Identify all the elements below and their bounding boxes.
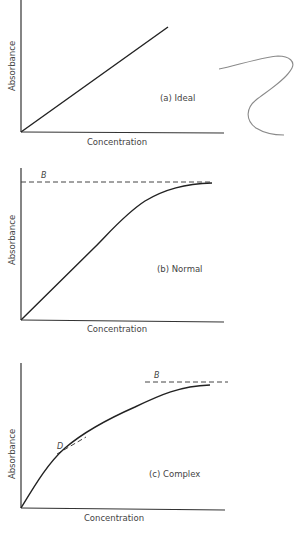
panel-c-y-label: Absorbance: [7, 429, 17, 479]
panel-c-b-label: B: [154, 371, 160, 380]
panel-a-title: (a) Ideal: [160, 93, 195, 103]
handwritten-squiggle: [219, 56, 293, 135]
calibration-curves-figure: Absorbance Concentration (a) Ideal B Abs…: [0, 0, 298, 533]
panel-b-x-label: Concentration: [87, 324, 147, 334]
panel-a-ideal-line: [21, 27, 168, 132]
panel-c-x-label: Concentration: [84, 513, 144, 523]
panel-a-y-label: Absorbance: [7, 41, 17, 91]
panel-c-d-label: D: [57, 442, 63, 451]
panel-a-x-label: Concentration: [87, 137, 147, 147]
panel-b-title: (b) Normal: [157, 264, 202, 274]
panel-c-title: (c) Complex: [149, 469, 200, 479]
panel-c-complex: B D Absorbance Concentration (c) Complex: [7, 363, 228, 523]
panel-b-normal: B Absorbance Concentration (b) Normal: [7, 168, 224, 334]
panel-c-complex-curve: [21, 385, 210, 508]
panel-b-x-axis: [21, 320, 224, 322]
panel-c-x-axis: [21, 508, 225, 510]
panel-a-ideal: Absorbance Concentration (a) Ideal: [7, 0, 224, 147]
panel-b-normal-curve: [21, 183, 212, 320]
panel-a-x-axis: [21, 132, 224, 133]
panel-b-b-label: B: [41, 171, 47, 180]
panel-b-y-label: Absorbance: [7, 215, 17, 265]
